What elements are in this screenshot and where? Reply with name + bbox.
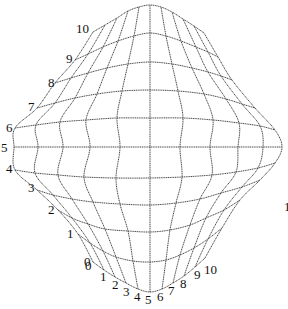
- grid-column-6: [161, 7, 183, 289]
- grid-row-3: [37, 180, 260, 205]
- row-labels: 012345678910: [1, 21, 91, 269]
- grid-row-4: [15, 163, 275, 178]
- deformed-grid-diagram: 012345678910 012345678910 1: [0, 0, 288, 309]
- row-label-10: 10: [76, 21, 89, 36]
- grid-row-lines: [14, 5, 282, 292]
- grid-row-9: [75, 33, 218, 60]
- row-label-1: 1: [67, 226, 74, 241]
- column-label-1: 1: [100, 269, 107, 284]
- grid-row-8: [55, 62, 232, 83]
- column-label-9: 9: [194, 267, 201, 282]
- grid-row-6: [15, 118, 275, 130]
- column-label-3: 3: [123, 284, 130, 299]
- grid-row-7: [37, 90, 255, 108]
- grid-column-lines: [13, 5, 282, 292]
- grid-column-7: [172, 12, 213, 283]
- column-labels: 012345678910: [85, 258, 217, 307]
- row-label-6: 6: [6, 120, 13, 135]
- grid-column-4: [116, 7, 139, 289]
- stray-label: 1: [284, 199, 288, 214]
- column-label-6: 6: [157, 289, 164, 304]
- column-label-2: 2: [112, 277, 119, 292]
- column-label-4: 4: [134, 289, 141, 304]
- row-label-7: 7: [28, 99, 35, 114]
- row-label-5: 5: [1, 140, 8, 155]
- column-label-0: 0: [85, 258, 92, 273]
- row-label-3: 3: [28, 180, 35, 195]
- row-label-9: 9: [66, 51, 73, 66]
- grid-column-9: [194, 26, 263, 267]
- row-label-4: 4: [6, 161, 13, 176]
- column-label-8: 8: [180, 276, 187, 291]
- row-label-8: 8: [48, 75, 55, 90]
- column-label-7: 7: [168, 283, 175, 298]
- column-label-5: 5: [145, 292, 152, 307]
- column-label-10: 10: [204, 262, 217, 277]
- row-label-2: 2: [48, 202, 55, 217]
